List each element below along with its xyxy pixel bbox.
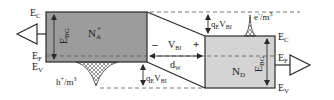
conduction-band-slope [147, 12, 205, 36]
n-ef-label: EF [278, 52, 288, 65]
hole-density-label: h+/m3 [56, 76, 76, 87]
p-ec-label: EC [30, 7, 41, 20]
band-diagram: EC EF EV NA+ EBG h+/m3 – + VBI dW qEVBI … [0, 0, 334, 100]
n-ec-label: EC [278, 31, 289, 44]
depletion-width-label: dW [170, 59, 181, 71]
right-contact-triangle-icon [290, 55, 310, 75]
minus-sign: – [151, 38, 158, 50]
n-ev-label: EV [278, 82, 289, 95]
plus-sign: + [193, 38, 199, 50]
bottom-barrier-label: qEVBI [146, 73, 167, 84]
left-contact-triangle-icon [17, 24, 37, 44]
electron-density-label: e-/m3 [254, 11, 273, 22]
p-doping-label: NA+ [88, 25, 101, 41]
hole-distribution-icon [76, 62, 118, 86]
top-barrier-label: qEVBI [211, 19, 232, 30]
vbi-label: VBI [168, 39, 181, 51]
